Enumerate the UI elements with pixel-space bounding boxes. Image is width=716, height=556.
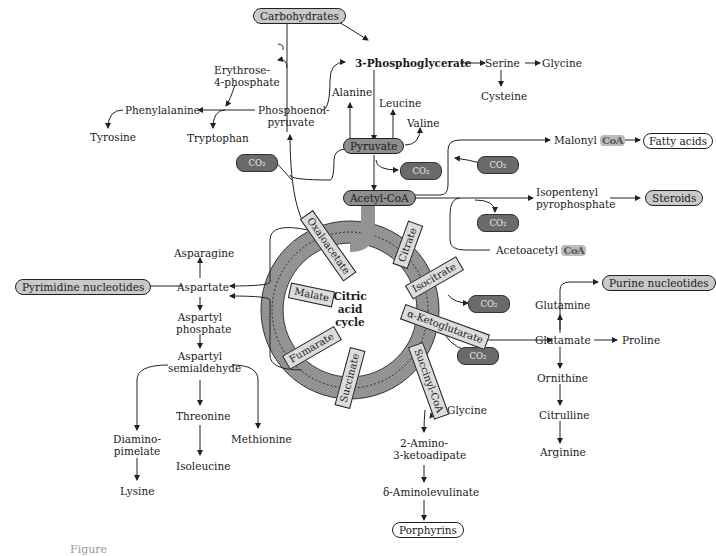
node-methionine: Methionine xyxy=(231,433,292,445)
pyrimidine-label: Pyrimidine nucleotides xyxy=(22,281,144,293)
malonyl-label: Malonyl xyxy=(554,134,597,146)
steroids-label: Steroids xyxy=(652,192,696,204)
carbohydrates-box: Carbohydrates xyxy=(253,8,346,24)
co2-icon: CO₂ xyxy=(457,347,499,365)
co2-icon: CO₂ xyxy=(477,156,519,174)
aspartyl-p-line2: phosphate xyxy=(176,323,224,335)
pyruvate-label: Pyruvate xyxy=(350,140,397,152)
steroids-box: Steroids xyxy=(645,190,703,206)
carbohydrates-label: Carbohydrates xyxy=(260,10,339,22)
node-erythrose-4-phosphate: Erythrose- 4-phosphate xyxy=(214,64,264,88)
center-line2: acid xyxy=(330,303,370,316)
amino-keto-line2: 3-ketoadipate xyxy=(393,449,455,461)
node-glutamine: Glutamine xyxy=(535,299,590,311)
diamino-line2: pimelate xyxy=(113,445,161,457)
node-isoleucine: Isoleucine xyxy=(176,460,230,472)
acetyl-coa-label: Acetyl-CoA xyxy=(350,192,409,204)
node-aspartate: Aspartate xyxy=(177,281,229,293)
diamino-line1: Diamino- xyxy=(113,433,161,445)
aspartyl-p-line1: Aspartyl xyxy=(176,311,224,323)
pyrimidine-nucleotides-box: Pyrimidine nucleotides xyxy=(15,279,151,295)
erythrose-line1: Erythrose- xyxy=(214,64,264,76)
co2-icon: CO₂ xyxy=(468,295,510,313)
node-alanine: Alanine xyxy=(332,86,372,98)
node-tyrosine: Tyrosine xyxy=(90,131,136,143)
coa-icon: CoA xyxy=(561,245,586,256)
node-lysine: Lysine xyxy=(120,485,154,497)
acetyl-coa-box: Acetyl-CoA xyxy=(343,190,416,206)
fatty-acids-label: Fatty acids xyxy=(649,135,707,147)
pep-line1: Phosphoenol- xyxy=(258,104,324,116)
porphyrins-box: Porphyrins xyxy=(392,522,464,538)
node-diaminopimelate: Diamino- pimelate xyxy=(113,433,161,457)
node-2-amino-3-ketoadipate: 2-Amino- 3-ketoadipate xyxy=(393,437,455,461)
aspartyl-s-line1: Aspartyl xyxy=(168,350,232,362)
pep-line2: pyruvate xyxy=(258,116,324,128)
co2-icon: CO₂ xyxy=(236,154,278,172)
node-arginine: Arginine xyxy=(540,446,586,458)
node-tryptophan: Tryptophan xyxy=(187,132,249,144)
node-malonyl-coa: Malonyl CoA xyxy=(554,134,625,147)
figure-caption: Figure xyxy=(70,543,107,556)
isopentenyl-line1: Isopentenyl xyxy=(536,186,615,198)
erythrose-line2: 4-phosphate xyxy=(214,76,264,88)
node-phenylalanine: Phenylalanine xyxy=(125,104,200,116)
node-leucine: Leucine xyxy=(379,97,421,109)
node-acetoacetyl-coa: Acetoacetyl CoA xyxy=(496,244,586,257)
center-line1: Citric xyxy=(330,290,370,303)
purine-label: Purine nucleotides xyxy=(609,277,709,289)
node-aminolevulinate: δ-Aminolevulinate xyxy=(383,486,479,498)
pyruvate-box: Pyruvate xyxy=(343,138,404,154)
node-ornithine: Ornithine xyxy=(537,372,588,384)
node-citrulline: Citrulline xyxy=(539,409,589,421)
isopentenyl-line2: pyrophosphate xyxy=(536,198,615,210)
co2-icon: CO₂ xyxy=(477,214,519,232)
acetoacetyl-label: Acetoacetyl xyxy=(496,244,558,256)
node-asparagine: Asparagine xyxy=(174,247,234,259)
node-phosphoenolpyruvate: Phosphoenol- pyruvate xyxy=(258,104,324,128)
fatty-acids-box: Fatty acids xyxy=(643,133,713,149)
purine-nucleotides-box: Purine nucleotides xyxy=(602,275,716,291)
amino-keto-line1: 2-Amino- xyxy=(393,437,455,449)
node-glutamate: Glutamate xyxy=(535,334,591,346)
porphyrins-label: Porphyrins xyxy=(399,524,457,536)
node-glycine-top: Glycine xyxy=(542,57,582,69)
node-threonine: Threonine xyxy=(176,410,230,422)
node-cysteine: Cysteine xyxy=(481,90,527,102)
node-aspartyl-semialdehyde: Aspartyl semialdehyde xyxy=(168,350,232,374)
node-3-phosphoglycerate: 3-Phosphoglycerate xyxy=(355,57,471,69)
node-isopentenyl-pyrophosphate: Isopentenyl pyrophosphate xyxy=(536,186,615,210)
center-line3: cycle xyxy=(330,316,370,329)
co2-icon: CO₂ xyxy=(400,162,442,180)
aspartyl-s-line2: semialdehyde xyxy=(168,362,232,374)
node-proline: Proline xyxy=(622,334,660,346)
node-glycine-bottom: Glycine xyxy=(447,404,487,416)
cycle-center-label: Citric acid cycle xyxy=(330,290,370,329)
node-serine: Serine xyxy=(485,57,520,69)
node-aspartyl-phosphate: Aspartyl phosphate xyxy=(176,311,224,335)
node-valine: Valine xyxy=(407,117,440,129)
coa-icon: CoA xyxy=(600,135,625,146)
